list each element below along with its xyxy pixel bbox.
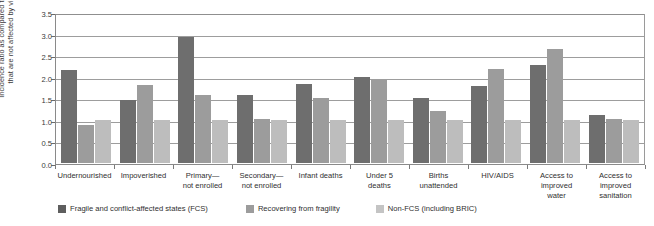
bar-group [409,14,468,163]
plot-area [55,14,645,165]
bar[interactable] [78,125,94,163]
legend-swatch-icon [376,205,384,213]
bar[interactable] [95,120,111,163]
y-axis-tick-label: 2.0 [26,75,52,84]
bar[interactable] [61,70,77,163]
legend-label: Non-FCS (including BRIC) [388,204,477,213]
bar[interactable] [505,120,521,163]
bar[interactable] [589,115,605,163]
y-axis-tick-label: 3.5 [26,10,52,19]
chart-legend: Fragile and conflict-affected states (FC… [55,204,645,213]
bar[interactable] [354,77,370,163]
x-axis-label: Access toimprovedsanitation [586,171,645,201]
bar-group [467,14,526,163]
y-axis-tick-label: 3.0 [26,32,52,41]
legend-item[interactable]: Fragile and conflict-affected states (FC… [58,204,208,213]
bar[interactable] [547,49,563,163]
bar[interactable] [388,120,404,163]
bar[interactable] [623,120,639,163]
y-axis-tick-label: 2.5 [26,53,52,62]
bar[interactable] [330,120,346,163]
bar[interactable] [413,98,429,163]
x-axis-label: Access toimprovedwater [527,171,586,201]
bar[interactable] [564,120,580,163]
legend-item[interactable]: Recovering from fragility [246,204,340,213]
bar[interactable] [430,111,446,163]
y-axis-tick-label: 1.5 [26,96,52,105]
bar[interactable] [237,95,253,163]
bar-group [526,14,585,163]
x-axis-tick-mark [114,165,115,169]
bar[interactable] [296,84,312,163]
y-axis-tick-label: 1.0 [26,118,52,127]
bar-group [174,14,233,163]
bar-group [350,14,409,163]
x-axis-tick-mark [409,165,410,169]
x-axis-tick-mark [645,165,646,169]
bar[interactable] [371,80,387,163]
bar[interactable] [120,100,136,163]
x-axis-tick-mark [173,165,174,169]
x-axis-label: Birthsunattended [409,171,468,201]
bar[interactable] [606,119,622,163]
bar-group [57,14,116,163]
bar[interactable] [271,120,287,163]
bar-group [291,14,350,163]
bar-chart: Incidence ratio as compared to countries… [0,0,654,226]
y-axis-title-line1: Incidence ratio as compared to countries [0,0,6,98]
x-axis-labels: UndernourishedImpoverishedPrimary—not en… [55,171,645,201]
x-axis-tick-mark [55,165,56,169]
x-axis-tick-mark [586,165,587,169]
x-axis-label: Under 5deaths [350,171,409,201]
x-axis-label: Infant deaths [291,171,350,201]
y-axis-tick-label: 0.5 [26,139,52,148]
bar[interactable] [530,65,546,163]
x-axis-label: Secondary—not enrolled [232,171,291,201]
x-axis-label: HIV/AIDS [468,171,527,201]
y-axis-title: Incidence ratio as compared to countries… [0,0,23,111]
bar-groups [57,14,643,163]
bar[interactable] [254,119,270,163]
y-axis-title-line2: that are not affected by violence [6,0,15,111]
legend-label: Fragile and conflict-affected states (FC… [70,204,208,213]
bar[interactable] [471,86,487,163]
legend-label: Recovering from fragility [258,204,340,213]
x-axis-tick-mark [350,165,351,169]
bar[interactable] [195,95,211,163]
x-axis-label: Primary—not enrolled [173,171,232,201]
x-axis-tick-mark [527,165,528,169]
x-axis-tick-marks [55,165,645,169]
bar[interactable] [212,120,228,163]
x-axis-tick-mark [232,165,233,169]
bar[interactable] [137,85,153,163]
legend-swatch-icon [246,205,254,213]
y-axis-tick-label: 0.0 [26,161,52,170]
bar-group [233,14,292,163]
bar[interactable] [488,69,504,163]
x-axis-label: Undernourished [55,171,114,201]
bar-group [116,14,175,163]
bar[interactable] [447,120,463,163]
bar[interactable] [178,37,194,163]
legend-item[interactable]: Non-FCS (including BRIC) [376,204,477,213]
legend-swatch-icon [58,205,66,213]
bar[interactable] [313,98,329,163]
x-axis-tick-mark [468,165,469,169]
bar-group [584,14,643,163]
x-axis-tick-mark [291,165,292,169]
x-axis-label: Impoverished [114,171,173,201]
bar[interactable] [154,120,170,163]
